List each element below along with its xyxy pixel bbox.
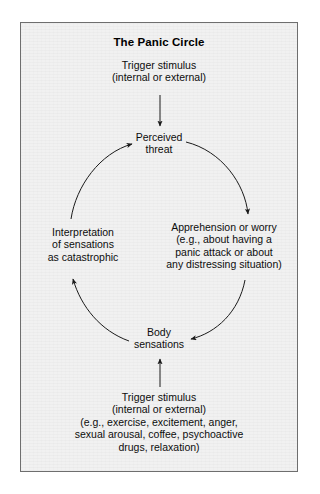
node-interpretation-of-sensations: Interpretation of sensations as catastro… bbox=[23, 226, 143, 263]
node-apprehension-or-worry: Apprehension or worry (e.g., about havin… bbox=[151, 221, 297, 271]
node-trigger-stimulus-top: Trigger stimulus (internal or external) bbox=[39, 59, 279, 84]
node-body-sensations: Body sensations bbox=[99, 326, 219, 351]
node-trigger-stimulus-bottom: Trigger stimulus (internal or external) … bbox=[25, 391, 293, 453]
figure-frame: The Panic Circle Trigger stimulus (inter… bbox=[20, 22, 298, 472]
node-perceived-threat: Perceived threat bbox=[99, 131, 219, 156]
